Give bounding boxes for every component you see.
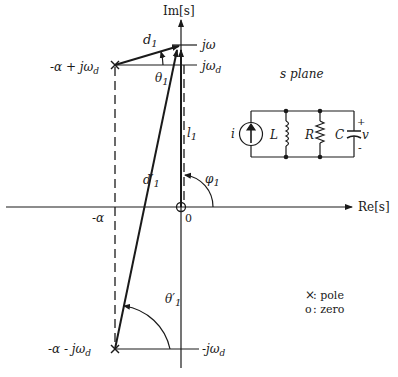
real-axis-label: Re[s] [358,200,390,214]
legend: × : pole o : zero [305,288,345,316]
theta1-arc [161,52,163,65]
capacitor-label: C [335,128,344,142]
neg-alpha-label: -α [92,211,104,225]
phi1-label: φ1 [205,172,220,188]
voltage-plus: + [357,116,365,127]
theta1-prime-arc [124,306,170,349]
inductor-icon [286,121,289,146]
origin-label: 0 [185,212,192,225]
legend-zero-label: : zero [313,303,345,316]
l1-label: l1 [187,126,197,142]
voltage-minus: - [358,142,362,155]
legend-zero-symbol: o [305,303,312,316]
neg-j-omega-d-label: -jωd [202,342,226,358]
circuit-nodes [284,109,323,160]
j-omega-label: jω [199,38,216,52]
resistor-icon [316,121,324,143]
resistor-label: R [304,128,314,142]
theta1-label: θ1 [155,71,169,87]
voltage-label: v [362,128,369,142]
d1-prime-label: d′1 [143,173,160,189]
vector-d1 [115,46,179,65]
d1-label: d1 [143,32,158,49]
inductor-label: L [269,128,278,142]
imaginary-axis-label: Im[s] [163,4,195,18]
j-omega-d-label: jωd [199,59,222,75]
theta1-prime-label: θ′1 [165,292,181,308]
legend-pole-label: : pole [313,289,344,302]
lower-pole-label: -α - jωd [48,342,91,358]
source-label: i [231,127,235,141]
s-plane-title: s plane [280,67,323,81]
s-plane-diagram: Im[s] Re[s] 0 s plane jω jωd -α + jωd -α… [0,0,398,377]
upper-pole-label: -α + jωd [50,60,99,76]
